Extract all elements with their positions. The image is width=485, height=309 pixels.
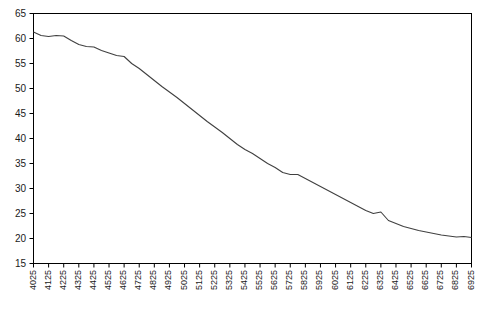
x-axis-tick-label: 6725 bbox=[436, 270, 445, 290]
line-chart: 6560555045403530252015 40254125422543254… bbox=[0, 0, 485, 309]
y-axis-tick-label: 25 bbox=[2, 209, 26, 219]
y-axis-tick-label: 60 bbox=[2, 34, 26, 44]
x-axis-tick-label: 4125 bbox=[44, 270, 53, 290]
x-axis-tick-label: 6125 bbox=[346, 270, 355, 290]
x-axis-tick-label: 5125 bbox=[195, 270, 204, 290]
x-axis-tick-label: 6525 bbox=[406, 270, 415, 290]
y-axis-tick-label: 20 bbox=[2, 234, 26, 244]
y-axis-tick-label: 55 bbox=[2, 59, 26, 69]
x-axis-tick-label: 6325 bbox=[376, 270, 385, 290]
plot-area-border bbox=[34, 14, 472, 264]
y-axis-tick-label: 65 bbox=[2, 9, 26, 19]
x-axis-tick-label: 5425 bbox=[240, 270, 249, 290]
y-axis-tick-label: 45 bbox=[2, 109, 26, 119]
x-axis-tick-label: 6225 bbox=[361, 270, 370, 290]
x-axis-tick-label: 6825 bbox=[451, 270, 460, 290]
y-axis-tick-label: 35 bbox=[2, 159, 26, 169]
x-axis-tick-label: 6625 bbox=[421, 270, 430, 290]
x-axis-tick-label: 5625 bbox=[270, 270, 279, 290]
x-axis-tick-marks bbox=[34, 264, 472, 268]
chart-plot-svg bbox=[0, 0, 485, 309]
x-axis-tick-label: 5825 bbox=[300, 270, 309, 290]
x-axis-tick-label: 4725 bbox=[134, 270, 143, 290]
x-axis-tick-label: 5025 bbox=[180, 270, 189, 290]
x-axis-tick-label: 4025 bbox=[29, 270, 38, 290]
x-axis-tick-label: 5925 bbox=[315, 270, 324, 290]
x-axis-tick-label: 6425 bbox=[391, 270, 400, 290]
x-axis-tick-label: 4325 bbox=[74, 270, 83, 290]
x-axis-tick-label: 4525 bbox=[104, 270, 113, 290]
x-axis-tick-label: 6925 bbox=[467, 270, 476, 290]
x-axis-tick-label: 5325 bbox=[225, 270, 234, 290]
x-axis-tick-label: 4225 bbox=[59, 270, 68, 290]
y-axis-tick-label: 50 bbox=[2, 84, 26, 94]
x-axis-tick-label: 5725 bbox=[285, 270, 294, 290]
x-axis-tick-label: 5525 bbox=[255, 270, 264, 290]
x-axis-tick-label: 4425 bbox=[89, 270, 98, 290]
x-axis-tick-label: 4625 bbox=[119, 270, 128, 290]
x-axis-tick-label: 4825 bbox=[149, 270, 158, 290]
y-axis-tick-label: 15 bbox=[2, 259, 26, 269]
y-axis-tick-label: 30 bbox=[2, 184, 26, 194]
x-axis-tick-label: 5225 bbox=[210, 270, 219, 290]
y-axis-tick-label: 40 bbox=[2, 134, 26, 144]
x-axis-tick-label: 4925 bbox=[164, 270, 173, 290]
x-axis-tick-label: 6025 bbox=[331, 270, 340, 290]
y-axis-tick-marks bbox=[30, 14, 34, 264]
